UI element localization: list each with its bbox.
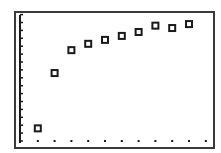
x-axis-tick-dot [87, 140, 89, 142]
data-point-marker [85, 41, 91, 47]
x-axis-tick-dot [104, 140, 106, 142]
x-axis-tick-dot [70, 140, 72, 142]
data-point-marker [186, 21, 192, 27]
x-axis-tick-dot [188, 140, 190, 142]
x-axis-tick-dot [121, 140, 123, 142]
data-point-marker [52, 70, 58, 76]
x-axis-tick-dot [205, 140, 207, 142]
x-axis-tick-dot [37, 140, 39, 142]
x-axis-tick-dot [171, 140, 173, 142]
data-point-marker [102, 37, 108, 43]
data-point-marker [68, 47, 74, 53]
data-point-marker [119, 33, 125, 39]
scatter-plot [0, 0, 221, 153]
data-point-marker [136, 29, 142, 35]
data-point-marker [35, 125, 41, 131]
x-axis-tick-dot [154, 140, 156, 142]
x-axis-tick-dot [54, 140, 56, 142]
data-point-marker [169, 25, 175, 31]
data-point-marker [152, 23, 158, 29]
x-axis-tick-dot [138, 140, 140, 142]
